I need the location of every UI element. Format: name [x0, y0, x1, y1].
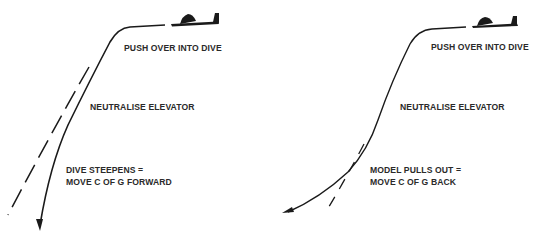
flight-path-solid: [40, 25, 165, 225]
label-push-over-right: PUSH OVER INTO DIVE: [431, 41, 529, 53]
label-neutralise-right: NEUTRALISE ELEVATOR: [400, 101, 505, 113]
dashed-reference-path-icon: [327, 144, 364, 210]
dashed-reference-path-icon: [8, 67, 89, 215]
label-result-line1-right: MODEL PULLS OUT =: [370, 164, 461, 176]
label-result-line2-right: MOVE C OF G BACK: [370, 176, 456, 188]
label-push-over-left: PUSH OVER INTO DIVE: [124, 42, 222, 54]
aircraft-icon: [472, 16, 518, 28]
diagram-canvas: PUSH OVER INTO DIVE NEUTRALISE ELEVATOR …: [0, 0, 535, 232]
label-result-line1-left: DIVE STEEPENS =: [66, 164, 143, 176]
flight-path-arrow-icon: [282, 207, 294, 213]
label-neutralise-left: NEUTRALISE ELEVATOR: [90, 101, 195, 113]
diagram-graphics: [0, 0, 535, 232]
aircraft-icon: [171, 13, 219, 27]
label-result-line2-left: MOVE C OF G FORWARD: [66, 176, 172, 188]
flight-path-arrow-icon: [36, 219, 43, 231]
